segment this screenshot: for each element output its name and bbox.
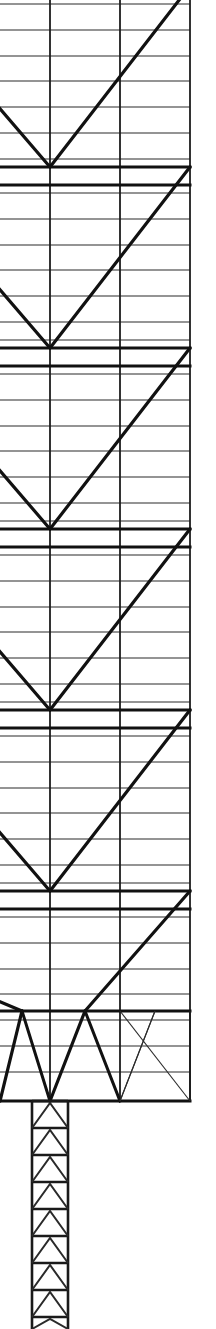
- technical-drawing-canvas: Tower crane lattice structure elevation …: [0, 0, 216, 1329]
- tower-crane-elevation-drawing: [0, 0, 216, 1329]
